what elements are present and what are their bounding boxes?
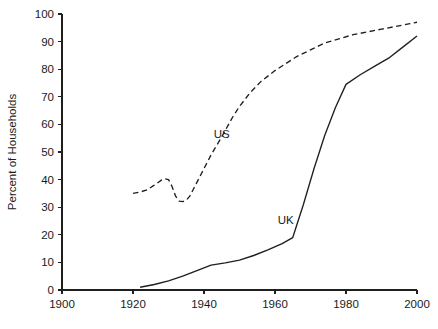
series-line-us [133, 22, 417, 201]
y-tick-label: 70 [41, 91, 54, 103]
y-tick-label: 40 [41, 174, 54, 186]
y-tick-label: 80 [41, 63, 54, 75]
x-tick-label: 2000 [404, 298, 430, 310]
x-tick-label: 1980 [333, 298, 359, 310]
x-tick-label: 1920 [120, 298, 146, 310]
y-tick-label: 90 [41, 36, 54, 48]
x-tick-label: 1940 [191, 298, 217, 310]
series-line-uk [140, 36, 417, 287]
series-label-group: USUK [214, 128, 294, 226]
y-tick-label: 50 [41, 146, 54, 158]
x-tick-label: 1960 [262, 298, 288, 310]
x-tick-label: 1900 [49, 298, 75, 310]
y-tick-label: 60 [41, 118, 54, 130]
x-axis-ticks: 190019201940196019802000 [49, 290, 430, 310]
series-label-uk: UK [278, 214, 294, 226]
data-series-group [133, 22, 417, 287]
series-label-us: US [214, 128, 230, 140]
y-tick-label: 20 [41, 229, 54, 241]
line-chart: 0102030405060708090100 19001920194019601… [0, 0, 438, 329]
y-axis-title: Percent of Households [6, 94, 18, 211]
y-tick-label: 30 [41, 201, 54, 213]
y-axis-ticks: 0102030405060708090100 [35, 8, 62, 296]
chart-figure: 0102030405060708090100 19001920194019601… [0, 0, 438, 329]
y-tick-label: 0 [48, 284, 54, 296]
y-tick-label: 100 [35, 8, 54, 20]
y-tick-label: 10 [41, 256, 54, 268]
